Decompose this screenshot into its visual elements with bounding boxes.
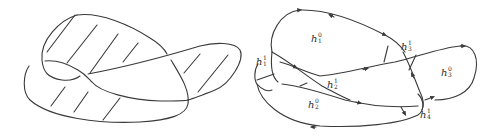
label-h2-1: h12: [327, 80, 338, 90]
label-h2-0: h02: [308, 100, 319, 110]
label-h3-1: h13: [401, 42, 412, 52]
label-h3-0: h03: [441, 68, 452, 78]
label-h1-0: h01: [311, 34, 322, 44]
label-h4-1: h14: [420, 110, 431, 120]
label-h1-1: h11: [256, 57, 267, 67]
left-knotted-surface: [24, 15, 241, 123]
